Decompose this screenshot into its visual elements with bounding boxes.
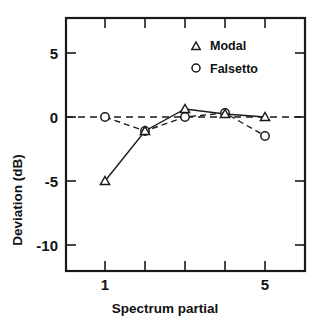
x-tick-label-5: 5 [261,276,269,293]
y-tick-label-minus5: -5 [45,173,58,190]
y-axis-ticks [66,53,76,245]
data-point-falsetto-5 [261,132,269,140]
plot-frame [66,18,305,271]
x-axis-ticks [105,261,265,271]
data-point-falsetto-3 [181,113,189,121]
chart-legend: Modal Falsetto [192,39,258,76]
chart-figure: 5 0 -5 -10 1 5 Spectrum partial Deviatio… [0,0,327,331]
y-tick-label-5: 5 [50,45,58,62]
y-axis-ticks-right [295,53,305,245]
y-axis-title: Deviation (dB) [10,154,25,246]
x-axis-ticks-top [105,18,265,28]
y-tick-label-0: 0 [50,109,58,126]
legend-label-modal: Modal [210,39,246,53]
x-tick-label-1: 1 [101,276,109,293]
data-point-falsetto-1 [101,113,109,121]
legend-label-falsetto: Falsetto [210,62,258,76]
x-axis-title: Spectrum partial [112,301,219,316]
y-tick-label-minus10: -10 [36,237,58,254]
data-point-modal-3 [180,105,189,113]
triangle-marker-icon [192,42,200,50]
circle-marker-icon [192,64,200,72]
deviation-line-chart: 5 0 -5 -10 1 5 Spectrum partial Deviatio… [0,0,327,331]
